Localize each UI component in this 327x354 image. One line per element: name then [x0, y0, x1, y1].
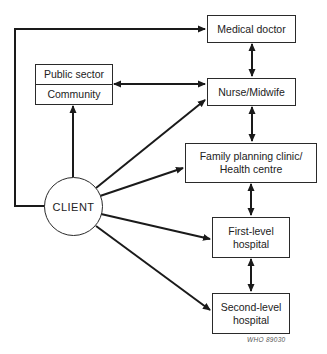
nurse-midwife-label: Nurse/Midwife	[218, 86, 285, 99]
arrow-client-to-second-level	[96, 226, 210, 310]
first-level-label-line1: First-level	[228, 225, 274, 238]
community-label: Community	[47, 88, 100, 100]
family-planning-label-line1: Family planning clinic/	[200, 150, 303, 163]
public-sector-label: Public sector	[44, 68, 104, 80]
medical-doctor-label: Medical doctor	[217, 23, 285, 36]
arrow-client-to-first-level	[101, 214, 210, 239]
medical-doctor-node: Medical doctor	[207, 15, 296, 43]
community-cell: Community	[36, 85, 112, 105]
client-node: CLIENT	[44, 177, 103, 236]
first-level-label-line2: hospital	[233, 238, 269, 251]
client-label: CLIENT	[52, 201, 94, 213]
nurse-midwife-node: Nurse/Midwife	[207, 78, 296, 106]
first-level-hospital-node: First-level hospital	[212, 217, 290, 258]
second-level-label-line1: Second-level	[221, 301, 282, 314]
family-planning-node: Family planning clinic/ Health centre	[185, 143, 317, 183]
public-sector-cell: Public sector	[36, 65, 112, 85]
family-planning-label-line2: Health centre	[220, 163, 282, 176]
arrow-client-to-family-planning	[100, 168, 183, 196]
who-credit: WHO 89030	[247, 336, 285, 343]
second-level-hospital-node: Second-level hospital	[212, 293, 290, 334]
public-sector-community-node: Public sector Community	[35, 64, 113, 105]
second-level-label-line2: hospital	[233, 314, 269, 327]
arrow-client-to-medical-doctor	[15, 29, 205, 206]
